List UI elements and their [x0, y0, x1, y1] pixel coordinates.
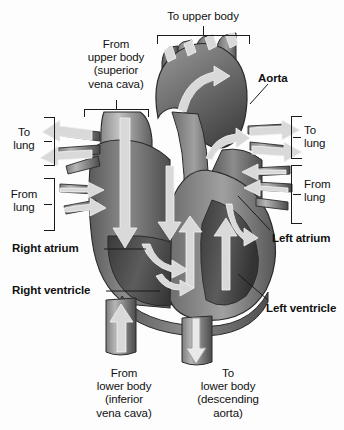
- label-from-lower-body: From lower body (inferior vena cava): [74, 367, 174, 420]
- label-from-lung-right: From lung: [304, 178, 344, 204]
- to-upper-body-bracket-tick: [203, 26, 204, 35]
- label-to-lung-left: To lung: [4, 126, 44, 152]
- from-lung-left-bracket-bottom: [44, 230, 55, 231]
- label-left-atrium: Left atrium: [272, 232, 330, 245]
- to-lung-right-bracket: [291, 116, 292, 158]
- label-to-upper-body: To upper body: [141, 10, 265, 23]
- label-right-ventricle: Right ventricle: [12, 284, 90, 297]
- to-lung-right-bracket-bottom: [291, 158, 302, 159]
- label-aorta: Aorta: [258, 72, 288, 85]
- to-lung-left-bracket-tick: [44, 141, 52, 142]
- label-to-lung-right: To lung: [304, 124, 340, 150]
- from-lung-right-bracket-tick: [293, 194, 301, 195]
- label-right-atrium: Right atrium: [12, 242, 79, 255]
- from-lung-left-bracket: [54, 178, 55, 230]
- from-lung-right-bracket: [291, 165, 292, 223]
- from-lung-right-bracket-bottom: [291, 223, 302, 224]
- from-upper-body-bracket-right: [148, 109, 149, 117]
- to-lung-left-bracket-top: [44, 117, 55, 118]
- aorta-leader: [250, 84, 268, 104]
- from-upper-body-bracket-tick: [116, 100, 117, 109]
- label-to-lower-body: To lower body (descending aorta): [176, 367, 280, 420]
- from-upper-body-bracket-span: [84, 109, 149, 110]
- to-lung-right-bracket-tick: [293, 137, 301, 138]
- label-from-lung-left: From lung: [2, 188, 46, 214]
- to-lung-left-bracket: [54, 117, 55, 165]
- to-upper-body-bracket-span: [157, 35, 250, 36]
- to-upper-body-bracket-right: [249, 35, 250, 44]
- from-lung-right-bracket-top: [291, 165, 302, 166]
- label-from-upper-body: From upper body (superior vena cava): [68, 38, 164, 91]
- from-lung-left-bracket-top: [44, 178, 55, 179]
- from-upper-body-bracket-left: [84, 109, 85, 117]
- heart-illustration: [0, 0, 344, 430]
- heart-diagram: To upper body From upper body (superior …: [0, 0, 344, 430]
- to-lung-left-bracket-bottom: [44, 165, 55, 166]
- to-lung-right-bracket-top: [291, 116, 302, 117]
- label-left-ventricle: Left ventricle: [266, 302, 336, 315]
